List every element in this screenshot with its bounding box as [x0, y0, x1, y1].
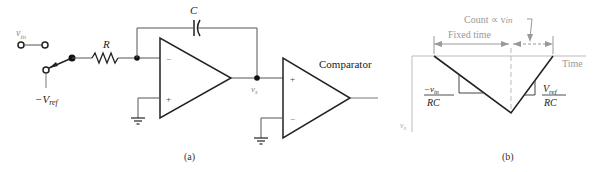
vin-terminal: [18, 42, 24, 48]
waveform-diagram: Time vx −vin RC Vref RC Fixed time Count…: [400, 14, 586, 163]
resistor-label: R: [102, 38, 110, 50]
capacitor-label: C: [190, 4, 198, 16]
left-slope-denominator: RC: [426, 97, 440, 108]
caption-a: (a): [184, 151, 195, 163]
left-slope-numerator: −vin: [424, 84, 439, 95]
count-label: Count ∝ vin: [464, 14, 513, 25]
right-slope-numerator: Vref: [543, 83, 558, 96]
circuit-diagram: vin −Vref R C − +: [16, 4, 378, 163]
fixed-time-label: Fixed time: [448, 29, 492, 40]
comparator-ground-wire: [261, 118, 283, 138]
arrow-right-icon: [545, 41, 553, 47]
y-axis-label: vx: [400, 121, 407, 131]
integrator-plus-sign: +: [166, 94, 171, 104]
count-pointer-arrow-icon: [527, 34, 533, 42]
time-axis-label: Time: [562, 58, 583, 69]
switch-arrow-icon: [49, 62, 58, 68]
arrow-left-icon: [513, 41, 521, 47]
vx-node: [254, 75, 260, 81]
vref-switch-contact: [43, 67, 49, 73]
arrow-left-icon: [434, 41, 442, 47]
comparator-minus-sign: −: [290, 114, 295, 124]
ground-icon: [131, 118, 145, 124]
resistor-r: [92, 53, 118, 63]
integrator-ground-wire: [138, 98, 160, 118]
integrator-minus-sign: −: [166, 54, 171, 64]
right-slope-denominator: RC: [543, 97, 557, 108]
dual-slope-adc-figure: vin −Vref R C − +: [0, 0, 600, 172]
comparator-plus-sign: +: [290, 74, 295, 84]
caption-b: (b): [502, 151, 514, 163]
vin-switch-contact: [42, 42, 48, 48]
vin-label: vin: [16, 27, 26, 41]
arrow-right-icon: [501, 41, 509, 47]
vx-label: vx: [251, 84, 258, 95]
comparator-opamp: [283, 58, 350, 138]
integrator-opamp: [160, 38, 231, 118]
vref-label: −Vref: [35, 93, 60, 107]
comparator-label: Comparator: [319, 58, 372, 70]
ground-icon: [254, 138, 268, 144]
